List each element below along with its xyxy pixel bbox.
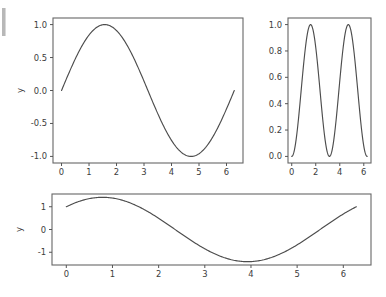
y-ticklabel: 0.4 <box>269 99 282 109</box>
y-ticklabel: -1 <box>38 247 46 257</box>
y-ticklabel: 0.0 <box>34 86 47 96</box>
y-ticklabel: 1.0 <box>34 20 47 30</box>
y-ticklabel: 0.0 <box>269 151 282 161</box>
y-ticklabel: 0.5 <box>34 53 47 63</box>
y-ticklabel: 0.6 <box>269 72 282 82</box>
matplotlib-figure-canvas: 0123456-1.0-0.50.00.51.0 y 02460.00.20.4… <box>0 0 386 297</box>
subplot-top-right: 02460.00.20.40.60.81.0 <box>269 18 371 177</box>
x-ticklabel: 1 <box>110 269 115 279</box>
window-edge-artifact <box>2 8 6 36</box>
x-ticklabel: 4 <box>169 167 174 177</box>
x-ticklabel: 5 <box>196 167 201 177</box>
y-ticklabel: 1.0 <box>269 20 282 30</box>
ylabel-bottom: y <box>14 227 24 232</box>
y-ticklabel: -1.0 <box>31 151 47 161</box>
y-ticklabel: 0 <box>41 225 46 235</box>
ticks-top-right: 02460.00.20.40.60.81.0 <box>269 20 367 177</box>
line-sin <box>62 25 235 157</box>
y-ticklabel: -0.5 <box>31 118 47 128</box>
x-ticklabel: 1 <box>86 167 91 177</box>
y-ticklabel: 0.8 <box>269 46 282 56</box>
x-ticklabel: 2 <box>114 167 119 177</box>
axes-frame-bottom <box>52 194 371 265</box>
line-sin-plus-cos <box>66 197 356 261</box>
y-ticklabel: 1 <box>41 202 46 212</box>
x-ticklabel: 0 <box>64 269 69 279</box>
subplot-top-left: 0123456-1.0-0.50.00.51.0 y <box>15 18 243 177</box>
x-ticklabel: 6 <box>341 269 346 279</box>
x-ticklabel: 3 <box>202 269 207 279</box>
x-ticklabel: 0 <box>289 167 294 177</box>
x-ticklabel: 4 <box>337 167 342 177</box>
axes-frame-top-right <box>288 18 371 163</box>
x-ticklabel: 5 <box>294 269 299 279</box>
y-ticklabel: 0.2 <box>269 125 282 135</box>
line-sin-squared <box>292 25 367 157</box>
ylabel-top-left: y <box>15 88 25 93</box>
subplot-bottom: 0123456-101 y <box>14 194 371 279</box>
x-ticklabel: 0 <box>59 167 64 177</box>
x-ticklabel: 6 <box>224 167 229 177</box>
x-ticklabel: 4 <box>248 269 253 279</box>
x-ticklabel: 3 <box>141 167 146 177</box>
figure-svg: 0123456-1.0-0.50.00.51.0 y 02460.00.20.4… <box>0 0 386 297</box>
x-ticklabel: 2 <box>156 269 161 279</box>
x-ticklabel: 6 <box>361 167 366 177</box>
x-ticklabel: 2 <box>313 167 318 177</box>
